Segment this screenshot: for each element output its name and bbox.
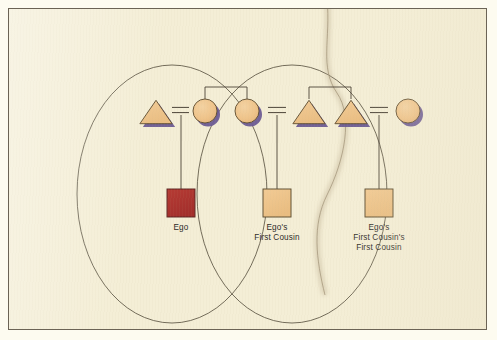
label-line: First Cousin's [353,233,404,243]
female-ego-mothers-sister [235,99,262,126]
scan-hair-artifact [317,9,346,295]
male-first-cousins-father [293,100,328,127]
figure-frame: EgoEgo'sFirst CousinEgo'sFirst Cousin'sF… [8,8,487,330]
sibling-bracket-mothers [205,87,247,99]
ego-first-cousins-first-cousin-label: Ego'sFirst Cousin'sFirst Cousin [353,223,404,254]
ego-first-cousin-square [263,189,291,217]
marriage-link-second-cousin-parents [370,107,388,189]
cousin-kindred-ellipse [197,65,387,323]
sibling-bracket-uncles [309,87,351,99]
label-line: Ego's [353,223,404,233]
male-symbol-triangle [140,100,172,123]
female-second-cousin-mother [396,99,423,126]
figure-page: EgoEgo'sFirst CousinEgo'sFirst Cousin'sF… [0,0,497,340]
marriage-link-cousin-parents [268,107,286,189]
female-ego-mother [193,99,220,126]
marriage-link-ego-parents [172,107,189,189]
male-ego-father [140,100,175,127]
female-symbol-circle [396,99,420,123]
descendant-squares-group [167,189,393,217]
kinship-diagram-canvas [9,9,488,331]
label-line: Ego [173,223,188,233]
female-symbol-circle [193,99,217,123]
ego-first-cousins-first-cousin-square [365,189,393,217]
label-line: First Cousin [254,233,299,243]
ego-square [167,189,195,217]
label-line: First Cousin [353,243,404,253]
female-symbol-circle [235,99,259,123]
ego-first-cousin-label: Ego'sFirst Cousin [254,223,299,243]
label-line: Ego's [254,223,299,233]
ego-label: Ego [173,223,188,233]
male-symbol-triangle [293,100,325,123]
